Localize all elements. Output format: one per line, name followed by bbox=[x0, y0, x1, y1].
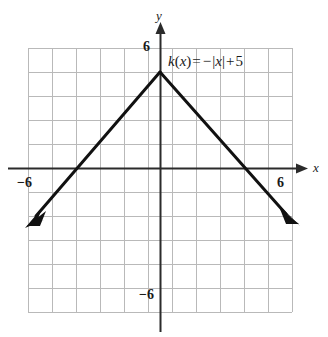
equation-equals: = bbox=[191, 53, 201, 69]
equation-minus: − bbox=[202, 53, 212, 69]
equation-variable-2: x bbox=[215, 53, 222, 69]
y-axis bbox=[156, 22, 166, 332]
x-axis-label: x bbox=[313, 160, 319, 176]
cropped-title-fragment bbox=[86, 0, 246, 8]
equation-annotation: k(x)=−|x|+5 bbox=[168, 53, 243, 70]
equation-plus: + bbox=[225, 53, 235, 69]
x-axis-tick-6: 6 bbox=[277, 175, 284, 191]
y-axis-tick-negative-6: −6 bbox=[139, 287, 154, 303]
y-axis-label: y bbox=[156, 8, 162, 24]
absolute-value-curve bbox=[25, 72, 300, 228]
absolute-value-graph-figure: y x 6 −6 −6 6 k(x)=−|x|+5 bbox=[0, 0, 328, 337]
graph-canvas bbox=[0, 0, 328, 337]
y-axis-tick-6: 6 bbox=[143, 39, 150, 55]
equation-constant: 5 bbox=[235, 53, 243, 69]
x-axis-tick-negative-6: −6 bbox=[17, 175, 32, 191]
equation-function-name: k bbox=[168, 53, 175, 69]
